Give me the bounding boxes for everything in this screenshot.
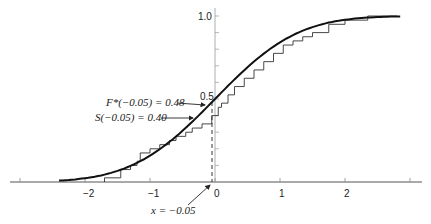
x-axis: −2 −1 0 1 2	[10, 178, 422, 199]
y-axis-ticks	[215, 16, 219, 165]
svg-text:S(−0.05) = 0.40: S(−0.05) = 0.40	[95, 111, 167, 124]
svg-text:x = −0.05: x = −0.05	[150, 204, 196, 216]
annotation-s: S(−0.05) = 0.40	[95, 111, 193, 124]
x-tick-label: −1	[148, 188, 160, 199]
svg-text:F*(−0.05) = 0.48: F*(−0.05) = 0.48	[105, 96, 185, 109]
x-tick-label: 2	[344, 188, 350, 199]
annotation-fstar: F*(−0.05) = 0.48	[105, 96, 205, 109]
y-tick-label: 0.5	[200, 91, 214, 102]
x-tick-label: −2	[83, 188, 95, 199]
x-tick-label: 0	[214, 188, 220, 199]
x-tick-label: 1	[279, 188, 285, 199]
cdf-comparison-chart: −2 −1 0 1 2 1.0 0.5 F*(−0.05) = 0.48 S(−…	[0, 0, 431, 224]
y-tick-label: 1.0	[198, 11, 212, 22]
y-axis: 1.0 0.5	[198, 8, 219, 182]
